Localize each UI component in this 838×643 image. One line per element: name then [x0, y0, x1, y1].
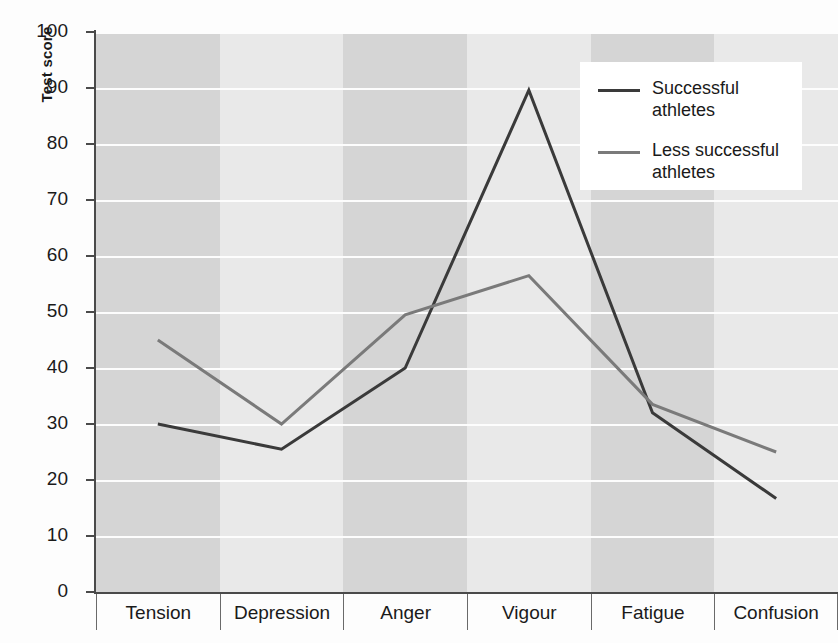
- y-tick-mark: [86, 87, 95, 89]
- y-tick-mark: [86, 255, 95, 257]
- chart-root: Test score 0102030405060708090100 Tensio…: [0, 0, 838, 643]
- y-tick-mark: [86, 535, 95, 537]
- x-axis-categories: TensionDepressionAngerVigourFatigueConfu…: [96, 594, 838, 634]
- y-tick-label: 90: [22, 76, 68, 98]
- y-tick-label: 20: [22, 468, 68, 490]
- y-tick-label: 70: [22, 188, 68, 210]
- chart-legend: SuccessfulathletesLess successfulathlete…: [580, 62, 802, 190]
- y-tick-mark: [86, 143, 95, 145]
- y-tick-label: 80: [22, 132, 68, 154]
- y-tick-label: 0: [22, 580, 68, 602]
- x-axis-category-vigour: Vigour: [467, 594, 591, 630]
- x-axis-category-depression: Depression: [220, 594, 344, 630]
- legend-label-line1: Successful: [652, 78, 739, 100]
- x-axis-category-label: Anger: [344, 602, 467, 624]
- y-tick-mark: [86, 423, 95, 425]
- y-tick-mark: [86, 479, 95, 481]
- legend-item: Less successfulathletes: [598, 140, 779, 184]
- legend-label: Successfulathletes: [652, 78, 739, 122]
- x-axis-category-anger: Anger: [343, 594, 467, 630]
- legend-item: Successfulathletes: [598, 78, 739, 122]
- y-tick-mark: [86, 367, 95, 369]
- y-tick-label: 100: [22, 20, 68, 42]
- series-line: [158, 276, 776, 452]
- y-tick-label: 10: [22, 524, 68, 546]
- y-tick-mark: [86, 31, 95, 33]
- x-axis-category-label: Confusion: [715, 602, 837, 624]
- y-tick-mark: [86, 199, 95, 201]
- legend-color-swatch: [598, 151, 640, 154]
- x-axis-category-label: Vigour: [468, 602, 591, 624]
- legend-label: Less successfulathletes: [652, 140, 779, 184]
- x-axis-category-confusion: Confusion: [714, 594, 838, 630]
- x-axis-category-fatigue: Fatigue: [591, 594, 715, 630]
- y-tick-label: 30: [22, 412, 68, 434]
- legend-label-line2: athletes: [652, 162, 779, 184]
- y-tick-mark: [86, 311, 95, 313]
- x-axis-category-label: Depression: [221, 602, 344, 624]
- y-tick-label: 50: [22, 300, 68, 322]
- legend-label-line2: athletes: [652, 100, 739, 122]
- y-tick-mark: [86, 591, 95, 593]
- legend-label-line1: Less successful: [652, 140, 779, 162]
- y-tick-label: 60: [22, 244, 68, 266]
- x-axis-category-tension: Tension: [96, 594, 220, 630]
- x-axis-category-label: Tension: [97, 602, 220, 624]
- x-axis-category-label: Fatigue: [592, 602, 715, 624]
- y-tick-label: 40: [22, 356, 68, 378]
- legend-color-swatch: [598, 89, 640, 92]
